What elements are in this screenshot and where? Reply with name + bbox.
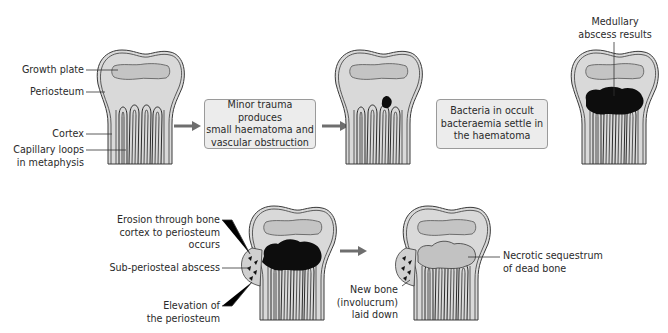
step2-line3: the haematoma: [441, 130, 543, 143]
step-box-minor-trauma: Minor trauma produces small haematoma an…: [204, 99, 316, 149]
label-necrotic-line2: of dead bone: [503, 263, 603, 276]
label-capillary-line1: Capillary loops: [13, 144, 84, 157]
label-erosion: Erosion through bone cortex to periosteu…: [117, 214, 220, 252]
label-periosteum: Periosteum: [30, 86, 84, 99]
label-capillary-line2: in metaphysis: [13, 157, 84, 170]
label-erosion-line1: Erosion through bone: [117, 214, 220, 227]
label-necrotic-line1: Necrotic sequestrum: [503, 250, 603, 263]
label-cortex: Cortex: [52, 128, 84, 141]
step2-line1: Bacteria in occult: [441, 105, 543, 118]
label-erosion-line2: cortex to periosteum: [117, 227, 220, 240]
label-newbone-line3: laid down: [337, 309, 398, 322]
bone-stage-medullary-abscess: [571, 50, 658, 164]
label-capillary-loops: Capillary loops in metaphysis: [13, 144, 84, 169]
label-newbone-line2: (involucrum): [337, 297, 398, 310]
label-newbone-line1: New bone: [337, 284, 398, 297]
bone-stage-subperiosteal-abscess: [241, 206, 336, 320]
label-elevation-line1: Elevation of: [147, 300, 220, 313]
bone-stage-haematoma: [335, 50, 422, 164]
label-new-bone-involucrum: New bone (involucrum) laid down: [337, 284, 398, 322]
bone-stage-normal: [97, 50, 184, 164]
arrow-icon: [340, 246, 367, 256]
label-elevation-line2: the periosteum: [147, 313, 220, 326]
step-box-bacteria: Bacteria in occult bacteraemia settle in…: [436, 99, 548, 149]
step2-line2: bacteraemia settle in: [441, 118, 543, 131]
label-growth-plate: Growth plate: [22, 64, 84, 77]
step1-line3: vascular obstruction: [205, 137, 315, 150]
arrow-icon: [174, 121, 201, 131]
label-medullary-abscess: Medullary abscess results: [570, 16, 660, 41]
bone-stage-sequestrum: [395, 206, 490, 320]
label-subperiosteal-abscess: Sub-periosteal abscess: [109, 262, 220, 275]
label-medullary-line1: Medullary: [570, 16, 660, 29]
label-medullary-line2: abscess results: [570, 29, 660, 42]
label-necrotic-sequestrum: Necrotic sequestrum of dead bone: [503, 250, 603, 275]
step1-line1: Minor trauma produces: [205, 99, 315, 124]
label-erosion-line3: occurs: [117, 239, 220, 252]
arrow-icon: [322, 121, 349, 131]
step1-line2: small haematoma and: [205, 124, 315, 137]
diagram-canvas: [0, 0, 668, 333]
label-elevation-periosteum: Elevation of the periosteum: [147, 300, 220, 325]
